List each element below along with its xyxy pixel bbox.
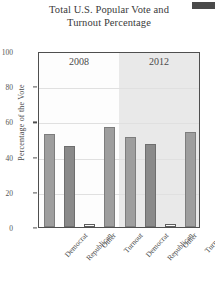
- y-tick-label-80: 80: [0, 83, 13, 92]
- chart-title-line-2: Turnout Percentage: [14, 16, 204, 29]
- y-tick-label-40: 40: [0, 153, 13, 162]
- y-tick-label-100: 100: [0, 48, 13, 57]
- x-tick-label-2012-turnout: Turnout: [203, 231, 215, 255]
- y-tick-label-0: 0: [0, 224, 13, 233]
- x-tick-label-2008-turnout: Turnout: [122, 231, 145, 255]
- y-tick-mark-20: [33, 192, 37, 193]
- bar-2008-democrat: [44, 134, 55, 227]
- bar-2012-other: [165, 224, 176, 227]
- y-tick-label-20: 20: [0, 188, 13, 197]
- y-tick-mark-40: [33, 157, 37, 158]
- bar-2012-democrat: [125, 137, 136, 227]
- bar-2008-republican: [64, 146, 75, 227]
- y-tick-mark-80: [33, 87, 37, 88]
- bar-2012-republican: [145, 144, 156, 227]
- chart-title: Total U.S. Popular Vote and Turnout Perc…: [14, 3, 204, 29]
- y-tick-mark-60: [33, 122, 37, 123]
- y-axis-label: Percentage of the Vote: [17, 58, 26, 188]
- bar-2012-turnout: [185, 132, 196, 227]
- bar-2008-other: [84, 224, 95, 227]
- plot-area: 2008 2012: [38, 52, 200, 228]
- y-tick-mark-0: [33, 227, 37, 228]
- bars-layer: [39, 53, 199, 227]
- y-tick-label-60: 60: [0, 118, 13, 127]
- chart-title-line-1: Total U.S. Popular Vote and: [14, 3, 204, 16]
- bar-2008-turnout: [104, 127, 115, 227]
